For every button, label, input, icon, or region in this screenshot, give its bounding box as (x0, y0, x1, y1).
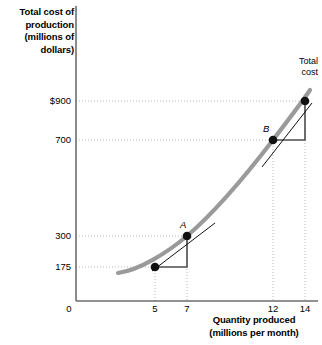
data-point-b (269, 136, 278, 145)
point-label-b: B (263, 123, 269, 134)
x-axis-title-line-1: Quantity produced (186, 314, 322, 327)
y-axis-title-line-1: Total cost of (2, 6, 74, 19)
y-tick-label-700: 700 (25, 134, 71, 145)
y-axis-title-line-4: dollars) (2, 44, 74, 57)
x-tick-label-5: 5 (143, 303, 167, 314)
x-tick-label-12: 12 (261, 303, 285, 314)
data-point-5-175 (151, 263, 160, 272)
x-tick-label-7: 7 (175, 303, 199, 314)
y-tick-label-300: 300 (25, 230, 71, 241)
curve-label-line-2: cost (276, 67, 318, 78)
total-cost-curve (118, 90, 310, 273)
curve-label: Total cost (276, 56, 318, 78)
data-point-a (183, 232, 192, 241)
x-axis-title-line-2: (millions per month) (186, 327, 322, 340)
tangent-line-a (152, 223, 215, 271)
y-axis-title-line-2: production (2, 19, 74, 32)
point-label-a: A (180, 219, 186, 230)
x-tick-label-0: 0 (57, 303, 81, 314)
y-tick-label-175: 175 (25, 261, 71, 272)
y-axis-title-line-3: (millions of (2, 31, 74, 44)
y-axis-title: Total cost of production (millions of do… (2, 6, 74, 56)
x-axis-title: Quantity produced (millions per month) (186, 314, 322, 339)
curve-label-line-1: Total (276, 56, 318, 67)
x-tick-label-14: 14 (293, 303, 317, 314)
data-point-14-900 (301, 97, 310, 106)
y-tick-label-900: $900 (25, 95, 71, 106)
